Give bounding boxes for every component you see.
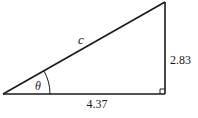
hypotenuse-side: [3, 2, 165, 94]
angle-label: θ: [35, 79, 41, 93]
hypotenuse-label: c: [78, 32, 84, 47]
angle-arc: [44, 71, 50, 94]
base-label: 4.37: [87, 97, 108, 111]
triangle-diagram: c θ 4.37 2.83: [0, 0, 198, 118]
height-label: 2.83: [170, 53, 191, 67]
